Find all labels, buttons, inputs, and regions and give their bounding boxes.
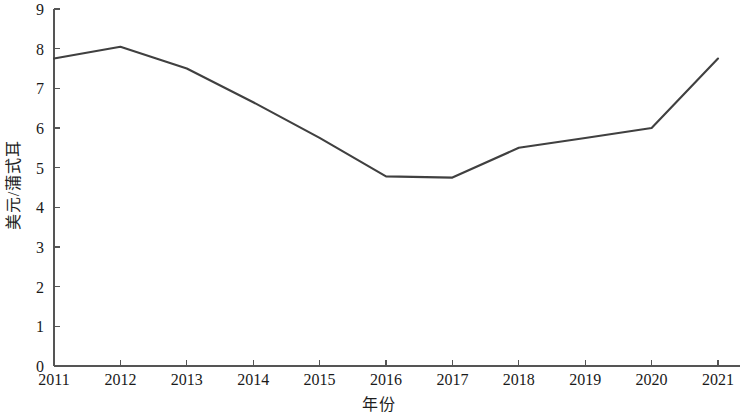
x-axis-title-text: 年份 bbox=[362, 391, 396, 415]
x-tick-label: 2016 bbox=[370, 371, 402, 388]
y-axis-tick-labels: 0123456789 bbox=[36, 1, 44, 375]
y-tick-label: 3 bbox=[36, 239, 44, 256]
y-tick-label: 2 bbox=[36, 279, 44, 296]
x-tick-label: 2013 bbox=[171, 371, 203, 388]
y-tick-label: 7 bbox=[36, 80, 44, 97]
x-tick-label: 2017 bbox=[436, 371, 468, 388]
data-series-line bbox=[54, 47, 718, 178]
x-axis-title: 年份 bbox=[0, 391, 747, 415]
plot-area: 0123456789 20112012201320142015201620172… bbox=[0, 0, 747, 418]
x-tick-label: 2011 bbox=[38, 371, 69, 388]
x-axis-tick-marks bbox=[54, 360, 718, 366]
y-tick-label: 9 bbox=[36, 1, 44, 18]
x-tick-label: 2014 bbox=[237, 371, 269, 388]
x-tick-label: 2012 bbox=[104, 371, 136, 388]
y-tick-label: 1 bbox=[36, 318, 44, 335]
x-tick-label: 2020 bbox=[636, 371, 668, 388]
x-axis-tick-labels: 2011201220132014201520162017201820192020… bbox=[38, 371, 734, 388]
y-tick-label: 8 bbox=[36, 41, 44, 58]
y-tick-label: 5 bbox=[36, 160, 44, 177]
y-tick-label: 4 bbox=[36, 199, 44, 216]
x-tick-label: 2021 bbox=[702, 371, 734, 388]
y-axis-tick-marks bbox=[54, 9, 60, 366]
x-tick-label: 2018 bbox=[503, 371, 535, 388]
y-tick-label: 6 bbox=[36, 120, 44, 137]
x-tick-label: 2015 bbox=[304, 371, 336, 388]
x-tick-label: 2019 bbox=[569, 371, 601, 388]
line-chart: 美元/蒲式耳 0123456789 2011201220132014201520… bbox=[0, 0, 747, 418]
